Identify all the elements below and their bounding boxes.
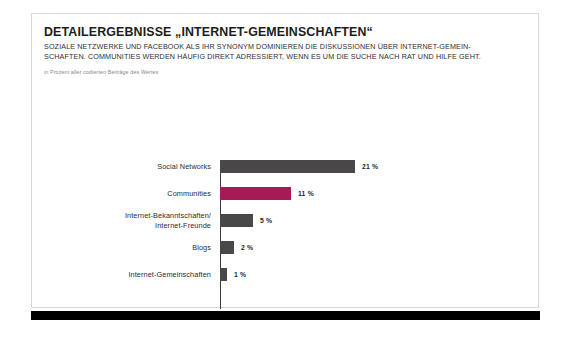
bar-track: 1 %: [220, 268, 540, 281]
chart-subtitle: SOZIALE NETZWERKE UND FACEBOOK ALS IHR S…: [44, 42, 494, 62]
bar-communities: [220, 187, 291, 200]
bar-row: Social Networks 21 %: [32, 160, 540, 173]
bar-track: 2 %: [220, 241, 540, 254]
bar-track: 5 %: [220, 214, 540, 227]
bar-value-label: 21 %: [362, 163, 378, 170]
bar-category-label: Blogs: [32, 243, 220, 252]
chart-unit-note: in Prozent aller codierten Beiträge des …: [44, 69, 514, 75]
bar-category-label: Internet-Bekanntschaften/ Internet-Freun…: [32, 211, 220, 230]
bar-row: Internet-Bekanntschaften/ Internet-Freun…: [32, 214, 540, 227]
chart-page-sheet: DETAILERGEBNISSE „INTERNET-GEMEINSCHAFTE…: [31, 13, 539, 308]
bar-social-networks: [220, 160, 355, 173]
scan-background: DETAILERGEBNISSE „INTERNET-GEMEINSCHAFTE…: [0, 0, 569, 338]
bar-blogs: [220, 241, 234, 254]
bar-category-label: Communities: [32, 189, 220, 198]
bar-value-label: 11 %: [298, 190, 314, 197]
bar-internet-gemeinschaften: [220, 268, 227, 281]
chart-header: DETAILERGEBNISSE „INTERNET-GEMEINSCHAFTE…: [44, 26, 514, 75]
bar-chart: Social Networks 21 % Communities 11 % In…: [32, 160, 540, 310]
bar-internet-bekanntschaften: [220, 214, 253, 227]
bar-row: Communities 11 %: [32, 187, 540, 200]
bar-rows: Social Networks 21 % Communities 11 % In…: [32, 160, 540, 281]
bar-row: Blogs 2 %: [32, 241, 540, 254]
page-title: DETAILERGEBNISSE „INTERNET-GEMEINSCHAFTE…: [44, 26, 514, 39]
bar-category-label: Internet-Gemeinschaften: [32, 270, 220, 279]
bar-value-label: 5 %: [260, 217, 272, 224]
bar-value-label: 2 %: [241, 244, 253, 251]
bar-row: Internet-Gemeinschaften 1 %: [32, 268, 540, 281]
bar-category-label: Social Networks: [32, 162, 220, 171]
bar-track: 11 %: [220, 187, 540, 200]
footer-black-bar: [31, 311, 540, 320]
bar-track: 21 %: [220, 160, 540, 173]
bar-value-label: 1 %: [234, 271, 246, 278]
